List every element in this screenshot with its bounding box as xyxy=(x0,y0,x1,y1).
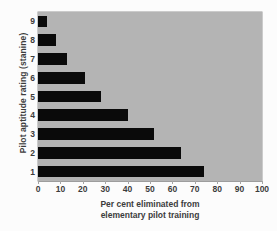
y-axis-tick-label: 9 xyxy=(20,17,35,26)
y-axis-tick-label: 4 xyxy=(20,111,35,120)
bar xyxy=(38,147,181,159)
y-axis-tick-labels: 987654321 xyxy=(20,12,35,181)
bar xyxy=(38,53,67,65)
x-axis-title-line-2: elementary pilot training xyxy=(38,210,262,221)
y-axis-tick-label: 6 xyxy=(20,74,35,83)
bar xyxy=(38,109,128,121)
bar xyxy=(38,166,204,178)
bar xyxy=(38,72,85,84)
y-axis-tick-label: 8 xyxy=(20,36,35,45)
y-axis-tick-label: 7 xyxy=(20,55,35,64)
x-axis-tick-label: 100 xyxy=(247,185,277,194)
x-axis-title: Per cent eliminated from elementary pilo… xyxy=(38,199,262,221)
y-axis-tick-label: 3 xyxy=(20,130,35,139)
x-axis-title-line-1: Per cent eliminated from xyxy=(38,199,262,210)
y-axis-tick-label: 5 xyxy=(20,93,35,102)
bar xyxy=(38,91,101,103)
y-axis-tick-label: 2 xyxy=(20,149,35,158)
bar xyxy=(38,128,154,140)
plot-area xyxy=(38,12,262,181)
bar xyxy=(38,34,56,46)
y-axis-tick-label: 1 xyxy=(20,168,35,177)
bar xyxy=(38,16,47,28)
chart-figure: Pilot aptitude rating (stanine) 98765432… xyxy=(0,0,277,231)
